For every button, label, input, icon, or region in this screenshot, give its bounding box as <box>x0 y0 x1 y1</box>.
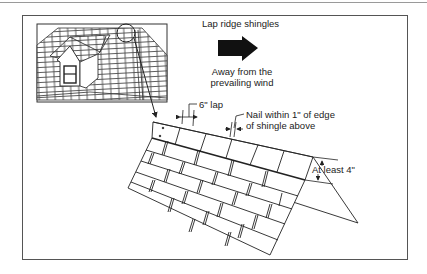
direction-caption-line1: Away from the <box>208 66 276 77</box>
title-label: Lap ridge shingles <box>202 18 279 29</box>
nail-label-line2: of shingle above <box>246 120 315 131</box>
lap-dimension <box>180 104 197 126</box>
nail-dimension <box>225 114 244 137</box>
exposure-label: At least 4" <box>312 164 355 175</box>
ridge-shingle-assembly <box>128 122 358 255</box>
direction-caption-line2: prevailing wind <box>205 77 279 88</box>
lap-label: 6" lap <box>199 99 223 110</box>
nail-label-line1: Nail within 1" of edge <box>246 109 335 120</box>
house-inset <box>37 24 167 117</box>
ridge-shingle-diagram <box>0 0 427 274</box>
wind-arrow-icon <box>218 36 258 61</box>
